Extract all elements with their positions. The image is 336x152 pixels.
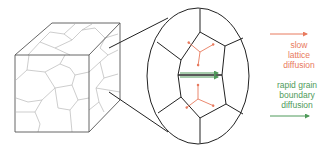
legend-line: slow xyxy=(262,40,336,50)
slow-lattice-diffusion-label: slow lattice diffusion xyxy=(262,40,336,70)
legend-line: rapid grain xyxy=(258,80,336,90)
cube-edges xyxy=(15,23,120,132)
legend-line: boundary xyxy=(258,90,336,100)
legend-line: diffusion xyxy=(262,60,336,70)
legend-line: diffusion xyxy=(258,100,336,110)
zoomed-grain xyxy=(147,8,249,144)
legend-line: lattice xyxy=(262,50,336,60)
polycrystal-cube xyxy=(15,23,120,132)
diffusion-diagram xyxy=(0,0,336,152)
rapid-grain-boundary-diffusion-label: rapid grain boundary diffusion xyxy=(258,80,336,110)
